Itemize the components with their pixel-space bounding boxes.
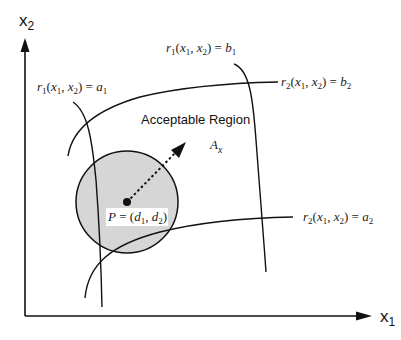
x-axis-label: x1: [380, 307, 396, 329]
point-label: P = (d1, d2): [106, 208, 168, 226]
curve-r1-b1: [234, 64, 266, 272]
label-r2-b2: r2(x1, x2) = b2: [281, 74, 351, 91]
label-r2-a2: r2(x1, x2) = a2: [303, 209, 373, 226]
label-r1-a1: r1(x1, x2) = a1: [37, 79, 107, 96]
region-label: Acceptable Region: [141, 112, 250, 127]
label-r1-b1: r1(x1, x2) = b1: [166, 40, 236, 57]
y-axis-arrow-icon: [21, 38, 30, 52]
design-space-diagram: x2 x1 Acceptable Region Ax P = (d1, d2) …: [0, 0, 401, 340]
region-symbol: Ax: [209, 137, 223, 155]
y-axis-label: x2: [19, 11, 35, 33]
point-p-dot: [123, 198, 131, 206]
x-axis-arrow-icon: [356, 312, 372, 321]
svg-text:P = (d1, d2): P = (d1, d2): [107, 209, 167, 226]
